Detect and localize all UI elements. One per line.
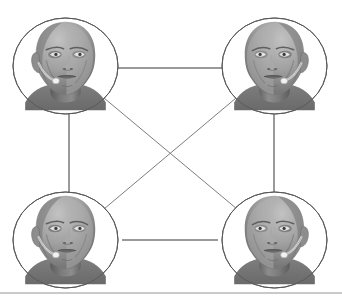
node-top-right[interactable] [222, 18, 327, 114]
network-diagram-figure [0, 0, 342, 303]
graph-canvas [0, 0, 342, 303]
node-bottom-left[interactable] [13, 192, 118, 288]
footer-divider [0, 292, 342, 294]
node-bottom-right[interactable] [222, 192, 327, 288]
node-top-left[interactable] [13, 18, 118, 114]
